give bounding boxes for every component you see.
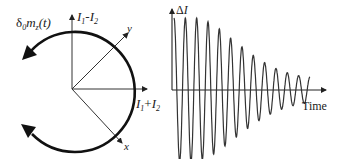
horizontal-axis-label: I1+I2 bbox=[135, 96, 160, 113]
rotation-arc bbox=[30, 32, 135, 152]
delta-i-axis-label: ΔI bbox=[176, 3, 189, 17]
rotation-diagram: δ0mz(t) I1-I2 I1+I2 y x bbox=[16, 9, 160, 152]
x-axis-label: x bbox=[123, 140, 129, 152]
rotation-label: δ0mz(t) bbox=[16, 15, 51, 32]
diagram-canvas: δ0mz(t) I1-I2 I1+I2 y x ΔI Time bbox=[0, 0, 343, 159]
y-axis-label: y bbox=[126, 22, 132, 34]
y-axis bbox=[72, 33, 128, 89]
oscillation-plot: ΔI Time bbox=[172, 3, 327, 159]
time-axis-label: Time bbox=[302, 99, 327, 113]
vertical-axis-label: I1-I2 bbox=[76, 9, 98, 26]
damped-wave bbox=[174, 18, 310, 159]
x-axis bbox=[72, 89, 122, 143]
